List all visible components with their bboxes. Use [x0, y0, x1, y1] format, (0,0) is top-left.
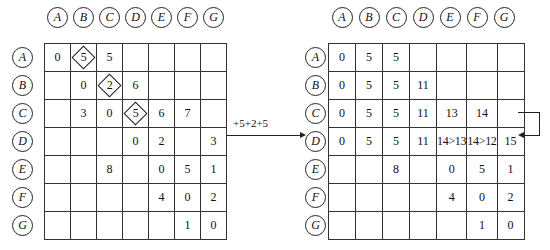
diamond-marker-icon: 2 [97, 73, 121, 97]
matrix-cell [45, 156, 71, 184]
row-header-c: C [12, 103, 33, 124]
matrix-cell: 0 [329, 44, 356, 72]
matrix-cell [410, 184, 437, 212]
matrix-cell: 11 [410, 100, 437, 128]
matrix-cell: 5 [383, 128, 410, 156]
matrix-cell [497, 44, 524, 72]
matrix-cell: 5 [356, 128, 383, 156]
matrix-cell: 14>12 [467, 128, 497, 156]
matrix-cell [329, 212, 356, 240]
arrow-head-icon [300, 132, 306, 138]
column-header-d: D [413, 7, 434, 28]
matrix-cell: 0 [45, 44, 71, 72]
matrix-cell [97, 212, 123, 240]
matrix-cell [71, 156, 97, 184]
matrix-cell [356, 156, 383, 184]
matrix-cell [71, 212, 97, 240]
matrix-cell [383, 212, 410, 240]
matrix-cell [123, 184, 149, 212]
row-header-b: B [305, 75, 326, 96]
matrix-cell: 2 [97, 72, 123, 100]
row-header-e: E [12, 159, 33, 180]
row-header-a: A [12, 47, 33, 68]
diamond-marker-icon: 5 [123, 101, 147, 125]
matrix-cell: 0 [467, 184, 497, 212]
matrix-cell: 7 [175, 100, 201, 128]
matrix-cell [71, 128, 97, 156]
table-row: 8051 [329, 156, 525, 184]
matrix-cell: 5 [71, 44, 97, 72]
matrix-cell [45, 184, 71, 212]
matrix-cell: 8 [97, 156, 123, 184]
matrix-cell [437, 44, 467, 72]
row-header-c: C [305, 103, 326, 124]
matrix-cell [497, 72, 524, 100]
row-header-b: B [12, 75, 33, 96]
matrix-cell [175, 44, 201, 72]
matrix-cell [201, 44, 227, 72]
matrix-cell [356, 212, 383, 240]
matrix-cell: 0 [329, 100, 356, 128]
matrix-cell: 4 [437, 184, 467, 212]
row-header-g: G [12, 215, 33, 236]
matrix-cell: 13 [437, 100, 467, 128]
left_table-grid: 05502630567023805140210 [44, 43, 227, 240]
row-header-f: F [305, 187, 326, 208]
matrix-cell: 8 [383, 156, 410, 184]
matrix-cell [175, 72, 201, 100]
matrix-cell: 3 [201, 128, 227, 156]
matrix-cell [45, 100, 71, 128]
column-header-f: F [467, 7, 488, 28]
table-row: 055 [45, 44, 227, 72]
matrix-cell: 11 [410, 72, 437, 100]
matrix-cell: 0 [123, 128, 149, 156]
matrix-cell: 5 [97, 44, 123, 72]
matrix-cell: 2 [201, 184, 227, 212]
matrix-cell: 0 [71, 72, 97, 100]
matrix-cell: 6 [149, 100, 175, 128]
feedback-arrow-head-icon [518, 132, 524, 138]
table-row: 023 [45, 128, 227, 156]
matrix-cell: 2 [497, 184, 524, 212]
table-row: 402 [45, 184, 227, 212]
matrix-cell [467, 72, 497, 100]
matrix-cell: 1 [497, 156, 524, 184]
column-header-e: E [151, 7, 172, 28]
column-header-b: B [359, 7, 380, 28]
matrix-cell: 5 [383, 44, 410, 72]
matrix-cell [410, 212, 437, 240]
table-row: 402 [329, 184, 525, 212]
matrix-cell: 14 [467, 100, 497, 128]
table-row: 8051 [45, 156, 227, 184]
row-header-d: D [12, 131, 33, 152]
right_table-grid: 055055110551113140551114>1314>1215805140… [328, 43, 525, 240]
matrix-cell [175, 128, 201, 156]
matrix-cell [329, 184, 356, 212]
matrix-cell [97, 128, 123, 156]
matrix-cell: 3 [71, 100, 97, 128]
table-row: 30567 [45, 100, 227, 128]
matrix-cell: 0 [201, 212, 227, 240]
column-header-e: E [440, 7, 461, 28]
matrix-cell [437, 72, 467, 100]
matrix-cell: 5 [383, 72, 410, 100]
matrix-cell: 1 [467, 212, 497, 240]
table-row: 05511 [329, 72, 525, 100]
matrix-cell: 0 [329, 128, 356, 156]
matrix-cell [45, 128, 71, 156]
row-header-g: G [305, 215, 326, 236]
matrix-cell: 5 [356, 100, 383, 128]
matrix-cell: 0 [497, 212, 524, 240]
column-header-g: G [494, 7, 515, 28]
matrix-cell [149, 72, 175, 100]
matrix-cell: 6 [123, 72, 149, 100]
table-row: 10 [329, 212, 525, 240]
matrix-cell: 5 [356, 44, 383, 72]
matrix-cell [149, 212, 175, 240]
row-header-f: F [12, 187, 33, 208]
column-header-f: F [177, 7, 198, 28]
matrix-cell [497, 100, 524, 128]
table-row: 055111314 [329, 100, 525, 128]
matrix-cell: 5 [383, 100, 410, 128]
matrix-cell [201, 100, 227, 128]
